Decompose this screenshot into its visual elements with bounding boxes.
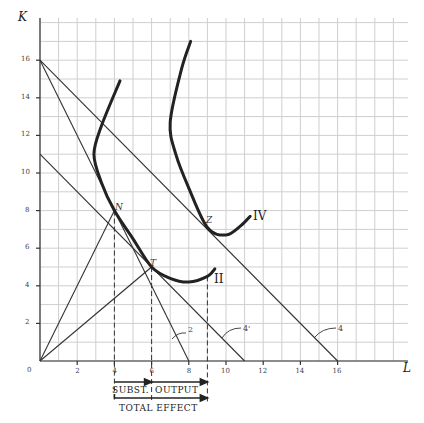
x-tick-label: 4 [112,367,116,375]
output-label: OUTPUT [155,385,198,395]
total-effect-label: TOTAL EFFECT [119,403,198,413]
y-tick-label: 12 [21,130,30,138]
point-z-label: Z [206,215,212,225]
y-tick-label: 16 [21,55,30,63]
x-tick-label: 12 [258,367,267,375]
y-axis-label: K [18,10,27,24]
chart-canvas [0,0,424,423]
y-tick-label: 6 [25,243,29,251]
point-n-label: N [115,202,123,212]
x-tick-label: 10 [221,367,230,375]
y-tick-label: 8 [25,206,29,214]
point-t-label: T [150,258,156,268]
y-tick-label: 2 [25,318,29,326]
x-tick-label: 8 [187,367,191,375]
x-tick-label: 6 [150,367,154,375]
origin-label: 0 [27,366,31,374]
y-tick-label: 10 [21,168,30,176]
x-tick-label: 14 [295,367,304,375]
line-2-label: 2 [188,325,193,334]
x-tick-label: 16 [333,367,342,375]
isoquants [94,41,250,282]
x-axis-label: L [403,361,411,375]
y-tick-label: 14 [21,93,30,101]
line-4prime-label: 4' [243,324,250,333]
isoquant-iv-label: IV [253,209,266,223]
x-tick-label: 2 [75,367,79,375]
line-4-label: 4 [338,324,343,333]
isoquant-ii-label: II [214,272,223,286]
subst-label: SUBST. [112,385,149,395]
grid [40,18,408,361]
label-leaders [172,328,336,339]
y-tick-label: 4 [25,281,29,289]
